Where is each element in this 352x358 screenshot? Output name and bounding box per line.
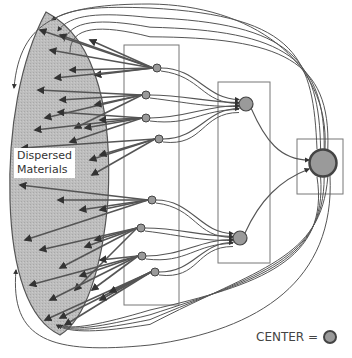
dispersed-materials-label: Dispersed Materials: [14, 148, 75, 178]
tier-1-node: [148, 196, 156, 204]
tier-1-node: [151, 268, 159, 276]
tier1-to-tier2-edge: [150, 95, 239, 103]
tier-2-node: [233, 231, 247, 245]
tier1-to-tier2-edge: [159, 243, 233, 273]
tier1-to-tier2-edge: [150, 110, 239, 122]
label-line-1: Dispersed: [17, 149, 72, 163]
tier-1-box: [124, 45, 179, 305]
tier1-to-tier2-edge: [150, 106, 239, 119]
tier1-to-tier2-edge: [161, 71, 239, 104]
center-top-loop: [70, 29, 328, 149]
tier-1-node: [137, 224, 145, 232]
tier-2-node: [239, 97, 253, 111]
network-diagram: [0, 0, 352, 358]
tier-1-node: [155, 135, 163, 143]
legend: CENTER =: [256, 330, 337, 344]
source-edge: [110, 272, 151, 292]
tier1-to-tier2-edge: [161, 68, 239, 100]
tier-1-node: [138, 252, 146, 260]
tier1-to-tier2-edge: [163, 109, 239, 140]
center-node: [310, 150, 337, 177]
tier1-to-tier2-edge: [146, 244, 233, 260]
tier-1-node: [142, 91, 150, 99]
legend-text: CENTER =: [256, 330, 318, 344]
source-edge: [90, 40, 153, 68]
tier-1-node: [153, 64, 161, 72]
label-line-2: Materials: [17, 163, 72, 177]
tier-1-node: [142, 114, 150, 122]
tier2-to-center-edge: [245, 169, 309, 233]
center-node-icon: [323, 330, 337, 344]
tier2-to-center-edge: [251, 108, 309, 160]
